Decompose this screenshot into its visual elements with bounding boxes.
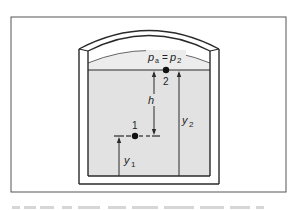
point-2-marker	[163, 67, 169, 73]
height-y2-subscript: 2	[189, 120, 194, 129]
caption-fragment	[12, 206, 264, 209]
height-y1-subscript: 1	[131, 160, 136, 169]
pressure-vessel-diagram: p a = p 2 2 h y 2 1 y 1	[0, 0, 296, 210]
point-1-label: 1	[132, 120, 138, 131]
depth-h-label: h	[148, 94, 154, 106]
p-symbol: p	[147, 51, 154, 63]
subscript-a: a	[155, 57, 159, 64]
point-1-marker	[132, 133, 138, 139]
point-2-label: 2	[163, 76, 169, 87]
p-symbol-rhs: p	[169, 51, 176, 63]
subscript-2: 2	[177, 56, 182, 65]
surface-pressure-label: p a = p 2	[146, 50, 186, 65]
equals-sign: =	[162, 52, 168, 63]
